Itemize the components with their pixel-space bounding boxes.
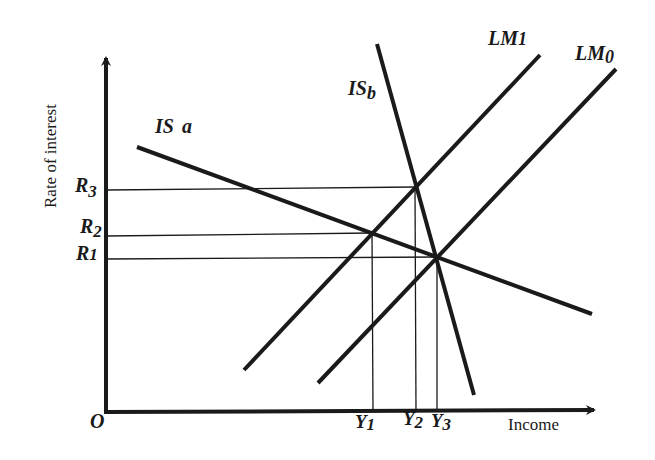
r3-guide [106, 187, 415, 190]
is-a-curve [137, 147, 592, 314]
x-axis [104, 410, 594, 412]
is-lm-diagram: IS a ISb LM1 LM0 R3 R2 R1 Y1 Y2 Y3 O Inc… [0, 0, 655, 460]
r1-label: R1 [75, 242, 98, 264]
x-axis-label: Income [508, 415, 559, 434]
y1-guide [372, 233, 373, 410]
y2-guide [415, 187, 416, 410]
lm0-curve [318, 69, 616, 383]
y-axis-label: Rate of interest [41, 104, 60, 208]
r3-label: R3 [74, 174, 97, 201]
origin-label: O [90, 410, 104, 432]
is-b-curve [377, 44, 474, 395]
is-b-label: ISb [347, 77, 376, 103]
r2-guide [106, 233, 372, 236]
lm0-label: LM0 [574, 42, 614, 67]
r1-guide [106, 257, 437, 259]
y1-label: Y1 [355, 411, 375, 434]
r2-label: R2 [79, 215, 102, 241]
y3-label: Y3 [431, 410, 452, 434]
lm1-label: LM1 [487, 27, 527, 49]
is-a-label: IS a [154, 115, 192, 137]
